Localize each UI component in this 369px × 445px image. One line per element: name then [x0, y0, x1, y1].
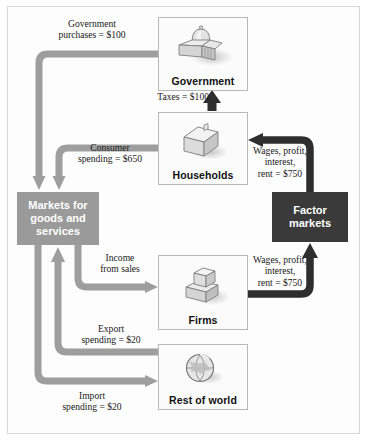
flow-label-factor-payments-to-households: Wages, profit, interest, rent = $750 [243, 145, 317, 179]
flow-label-line-1: Import [46, 390, 138, 401]
flow-label-line-2: spending = $20 [66, 334, 156, 345]
entity-label-rest-of-world: Rest of world [169, 394, 237, 406]
arrow-government-purchases [33, 54, 159, 190]
flow-label-consumer-spending: Consumer spending = $650 [62, 142, 158, 165]
entity-card-firms[interactable]: Firms [158, 255, 248, 330]
flow-label-line-1: Wages, profit, [243, 254, 317, 265]
entity-label-households: Households [172, 169, 233, 181]
flow-label-line-2: from sales [84, 263, 156, 274]
circular-flow-diagram: Markets for goods and services Factor ma… [0, 0, 369, 445]
entity-label-firms: Firms [188, 314, 217, 326]
flow-label-line-1: Taxes = $100 [131, 91, 209, 102]
flow-label-line-2: spending = $20 [46, 401, 138, 412]
markets-goods-services-block[interactable]: Markets for goods and services [17, 192, 99, 245]
capitol-dome-icon [159, 18, 247, 75]
flow-label-line-3: rent = $750 [243, 168, 317, 179]
flow-label-income-from-sales: Income from sales [84, 252, 156, 275]
flow-label-line-2: spending = $650 [62, 153, 158, 164]
flow-label-taxes: Taxes = $100 [131, 91, 209, 102]
factory-blocks-icon [159, 256, 247, 314]
flow-label-line-1: Consumer [62, 142, 158, 153]
entity-card-rest-of-world[interactable]: Rest of world [158, 344, 248, 410]
flow-label-line-2: interest, [243, 156, 317, 167]
flow-label-line-1: Income [84, 252, 156, 263]
factor-markets-block[interactable]: Factor markets [272, 192, 348, 242]
globe-icon [159, 345, 247, 394]
entity-card-government[interactable]: Government [158, 17, 248, 91]
flow-label-import-spending: Import spending = $20 [46, 390, 138, 413]
entity-label-government: Government [172, 75, 235, 87]
house-icon [159, 113, 247, 169]
flow-label-line-2: interest, [243, 265, 317, 276]
flow-label-line-2: purchases = $100 [30, 29, 154, 40]
flow-label-line-1: Export [66, 323, 156, 334]
flow-label-line-3: rent = $750 [243, 277, 317, 288]
flow-label-government-purchases: Government purchases = $100 [30, 18, 154, 41]
entity-card-households[interactable]: Households [158, 112, 248, 185]
flow-label-line-1: Wages, profit, [243, 145, 317, 156]
flow-label-export-spending: Export spending = $20 [66, 323, 156, 346]
flow-label-factor-payments-from-firms: Wages, profit, interest, rent = $750 [243, 254, 317, 288]
flow-label-line-1: Government [30, 18, 154, 29]
